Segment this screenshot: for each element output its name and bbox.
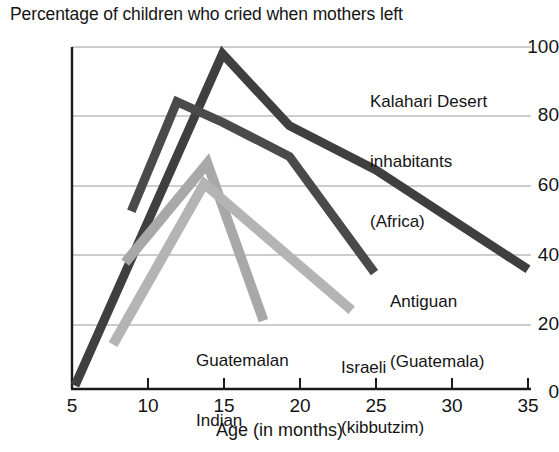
- annotation-kalahari: Kalahari Desert inhabitants (Africa): [370, 52, 487, 273]
- annotation-israeli-line1: Israeli: [341, 358, 424, 378]
- annotation-guatemalan-line1: Guatemalan: [196, 351, 289, 371]
- annotation-antiguan-line1: Antiguan: [390, 292, 484, 312]
- annotation-kalahari-line3: (Africa): [370, 212, 487, 232]
- annotation-kalahari-line1: Kalahari Desert: [370, 92, 487, 112]
- x-axis-title: Age (in months): [0, 420, 559, 441]
- chart-figure: Percentage of children who cried when mo…: [0, 0, 559, 452]
- annotation-kalahari-line2: inhabitants: [370, 152, 487, 172]
